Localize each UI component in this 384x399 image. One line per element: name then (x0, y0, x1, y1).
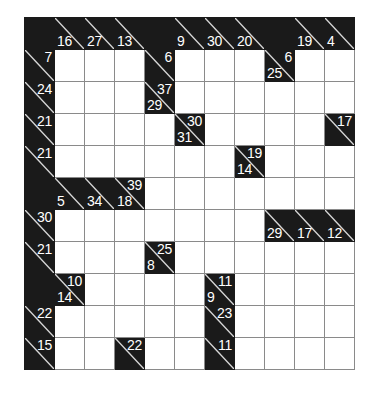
kakuro-entry-cell[interactable] (145, 338, 175, 370)
kakuro-entry-cell[interactable] (145, 306, 175, 338)
kakuro-entry-cell[interactable] (205, 242, 235, 274)
kakuro-entry-cell[interactable] (175, 50, 205, 82)
kakuro-entry-cell[interactable] (55, 82, 85, 114)
kakuro-entry-cell[interactable] (235, 306, 265, 338)
kakuro-entry-cell[interactable] (265, 274, 295, 306)
kakuro-entry-cell[interactable] (115, 114, 145, 146)
kakuro-entry-cell[interactable] (235, 338, 265, 370)
kakuro-clue-cell: 11 (205, 338, 235, 370)
kakuro-entry-cell[interactable] (265, 82, 295, 114)
down-clue-value: 25 (267, 66, 282, 81)
down-clue-value: 14 (57, 290, 72, 305)
kakuro-entry-cell[interactable] (85, 50, 115, 82)
kakuro-entry-cell[interactable] (145, 146, 175, 178)
kakuro-entry-cell[interactable] (325, 338, 355, 370)
kakuro-entry-cell[interactable] (235, 114, 265, 146)
kakuro-entry-cell[interactable] (295, 242, 325, 274)
kakuro-entry-cell[interactable] (265, 146, 295, 178)
kakuro-puzzle: 1627139302019476625243729213031172119145… (0, 0, 384, 399)
kakuro-entry-cell[interactable] (325, 82, 355, 114)
kakuro-entry-cell[interactable] (115, 242, 145, 274)
across-clue-value: 22 (127, 338, 142, 353)
kakuro-entry-cell[interactable] (175, 178, 205, 210)
kakuro-entry-cell[interactable] (295, 114, 325, 146)
kakuro-entry-cell[interactable] (85, 146, 115, 178)
kakuro-entry-cell[interactable] (205, 114, 235, 146)
kakuro-entry-cell[interactable] (85, 338, 115, 370)
kakuro-entry-cell[interactable] (55, 306, 85, 338)
kakuro-entry-cell[interactable] (205, 146, 235, 178)
kakuro-entry-cell[interactable] (85, 82, 115, 114)
kakuro-entry-cell[interactable] (205, 178, 235, 210)
kakuro-entry-cell[interactable] (295, 306, 325, 338)
kakuro-entry-cell[interactable] (85, 274, 115, 306)
kakuro-entry-cell[interactable] (205, 210, 235, 242)
kakuro-entry-cell[interactable] (55, 114, 85, 146)
kakuro-entry-cell[interactable] (85, 242, 115, 274)
kakuro-entry-cell[interactable] (115, 210, 145, 242)
across-clue-value: 10 (67, 274, 82, 289)
kakuro-entry-cell[interactable] (235, 50, 265, 82)
across-clue-value: 6 (165, 50, 173, 65)
across-clue-value: 37 (157, 82, 172, 97)
kakuro-entry-cell[interactable] (115, 82, 145, 114)
kakuro-entry-cell[interactable] (145, 274, 175, 306)
kakuro-entry-cell[interactable] (175, 210, 205, 242)
kakuro-entry-cell[interactable] (295, 274, 325, 306)
kakuro-entry-cell[interactable] (235, 82, 265, 114)
kakuro-clue-cell: 16 (55, 18, 85, 50)
kakuro-entry-cell[interactable] (175, 338, 205, 370)
kakuro-entry-cell[interactable] (265, 242, 295, 274)
kakuro-row: 5343918 (25, 178, 355, 210)
kakuro-entry-cell[interactable] (325, 146, 355, 178)
kakuro-entry-cell[interactable] (175, 82, 205, 114)
kakuro-entry-cell[interactable] (55, 242, 85, 274)
kakuro-entry-cell[interactable] (235, 178, 265, 210)
kakuro-entry-cell[interactable] (85, 114, 115, 146)
kakuro-block-cell (265, 18, 295, 50)
kakuro-entry-cell[interactable] (205, 50, 235, 82)
kakuro-entry-cell[interactable] (55, 338, 85, 370)
kakuro-entry-cell[interactable] (235, 274, 265, 306)
kakuro-entry-cell[interactable] (295, 82, 325, 114)
kakuro-entry-cell[interactable] (175, 274, 205, 306)
kakuro-entry-cell[interactable] (325, 50, 355, 82)
kakuro-clue-cell: 5 (55, 178, 85, 210)
kakuro-entry-cell[interactable] (325, 274, 355, 306)
kakuro-entry-cell[interactable] (175, 146, 205, 178)
kakuro-entry-cell[interactable] (55, 210, 85, 242)
kakuro-entry-cell[interactable] (235, 210, 265, 242)
kakuro-entry-cell[interactable] (265, 178, 295, 210)
kakuro-clue-cell: 3031 (175, 114, 205, 146)
kakuro-clue-cell: 20 (235, 18, 265, 50)
kakuro-entry-cell[interactable] (85, 306, 115, 338)
kakuro-entry-cell[interactable] (325, 178, 355, 210)
kakuro-entry-cell[interactable] (55, 146, 85, 178)
kakuro-clue-cell: 17 (325, 114, 355, 146)
kakuro-entry-cell[interactable] (295, 50, 325, 82)
kakuro-entry-cell[interactable] (145, 178, 175, 210)
kakuro-entry-cell[interactable] (145, 210, 175, 242)
kakuro-clue-cell: 7 (25, 50, 55, 82)
kakuro-entry-cell[interactable] (115, 274, 145, 306)
kakuro-entry-cell[interactable] (325, 242, 355, 274)
kakuro-entry-cell[interactable] (325, 306, 355, 338)
kakuro-entry-cell[interactable] (55, 50, 85, 82)
kakuro-entry-cell[interactable] (295, 178, 325, 210)
across-clue-value: 22 (37, 306, 52, 321)
kakuro-entry-cell[interactable] (115, 146, 145, 178)
kakuro-entry-cell[interactable] (175, 306, 205, 338)
kakuro-entry-cell[interactable] (115, 50, 145, 82)
kakuro-entry-cell[interactable] (205, 82, 235, 114)
kakuro-entry-cell[interactable] (265, 338, 295, 370)
kakuro-entry-cell[interactable] (265, 114, 295, 146)
kakuro-entry-cell[interactable] (175, 242, 205, 274)
kakuro-entry-cell[interactable] (295, 338, 325, 370)
kakuro-entry-cell[interactable] (265, 306, 295, 338)
kakuro-entry-cell[interactable] (235, 242, 265, 274)
kakuro-entry-cell[interactable] (295, 146, 325, 178)
kakuro-entry-cell[interactable] (85, 210, 115, 242)
kakuro-entry-cell[interactable] (115, 306, 145, 338)
kakuro-row: 21258 (25, 242, 355, 274)
kakuro-entry-cell[interactable] (145, 114, 175, 146)
